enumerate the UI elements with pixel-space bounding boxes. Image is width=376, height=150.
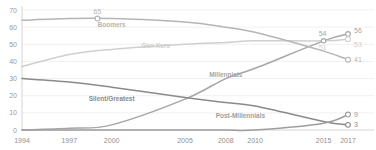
y-tick-label-10: 10 <box>9 109 17 116</box>
x-tick-label-1997: 1997 <box>61 137 77 144</box>
endpoint-markers-group <box>346 32 351 128</box>
line-boomers <box>22 18 348 59</box>
y-tick-label-70: 70 <box>9 7 17 14</box>
gridlines-group <box>22 6 374 130</box>
x-tick-label-2000: 2000 <box>104 137 120 144</box>
x-tick-label-2005: 2005 <box>177 137 193 144</box>
endpoint-marker-post-millennials <box>346 112 351 117</box>
line-silent-greatest <box>22 79 348 125</box>
endpoint-marker-boomers <box>346 57 351 62</box>
x-axis-tick-labels: 19941997200020052008201020152017 <box>14 137 356 144</box>
series-label-post-millennials: Post-Millennials <box>216 112 266 119</box>
peak-value-boomers: 65 <box>94 8 102 15</box>
y-tick-label-30: 30 <box>9 75 17 82</box>
x-tick-label-2010: 2010 <box>247 137 263 144</box>
y-tick-label-50: 50 <box>9 41 17 48</box>
marker-millennials-2015 <box>321 39 325 43</box>
end-value-boomers: 41 <box>354 56 362 63</box>
series-label-boomers: Boomers <box>98 21 127 28</box>
y-tick-label-40: 40 <box>9 58 17 65</box>
end-value-millennials: 56 <box>354 27 362 34</box>
end-value-post-millennials: 9 <box>354 111 358 118</box>
callout-genxers-2015: 51 <box>319 44 327 51</box>
callout-millennials-2015: 54 <box>319 30 327 37</box>
endpoint-marker-silent-greatest <box>346 122 351 127</box>
y-axis-tick-labels: 010203040506070 <box>9 7 17 134</box>
x-tick-label-2017: 2017 <box>340 137 356 144</box>
x-tick-label-1994: 1994 <box>14 137 30 144</box>
end-value-silent-greatest: 3 <box>354 121 358 128</box>
line-gen-xers <box>22 39 348 66</box>
y-tick-label-60: 60 <box>9 24 17 31</box>
series-label-silent-greatest: Silent/Greatest <box>89 95 136 102</box>
endpoint-marker-gen-xers <box>346 37 351 42</box>
series-label-millennials: Millennials <box>209 71 243 78</box>
peak-marker-boomers <box>95 16 100 21</box>
x-tick-label-2008: 2008 <box>218 137 234 144</box>
y-tick-label-0: 0 <box>13 127 17 134</box>
y-tick-label-20: 20 <box>9 92 17 99</box>
generations-line-chart: 010203040506070 199419972000200520082010… <box>0 0 376 150</box>
chart-canvas: 010203040506070 199419972000200520082010… <box>0 0 376 150</box>
x-tick-label-2015: 2015 <box>316 137 332 144</box>
data-lines-group <box>22 18 348 130</box>
end-value-gen-xers: 53 <box>354 41 362 48</box>
endpoint-marker-millennials <box>346 32 351 37</box>
series-label-gen-xers: Gen Xers <box>141 42 170 49</box>
